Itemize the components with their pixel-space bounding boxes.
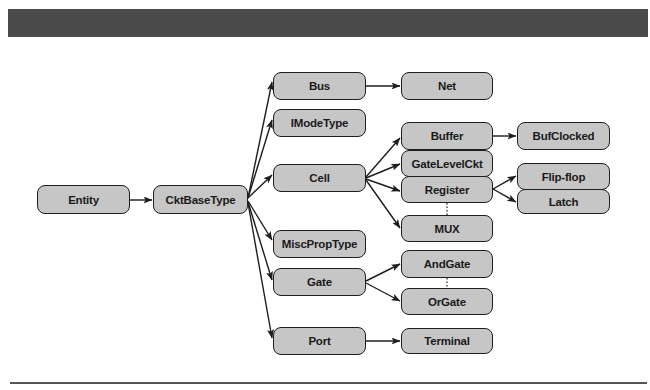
node-register: Register xyxy=(401,176,493,203)
node-miscproptype: MiscPropType xyxy=(273,230,366,258)
node-label: Register xyxy=(425,184,469,196)
node-label: Gate xyxy=(307,276,332,288)
node-label: Terminal xyxy=(424,335,469,347)
node-cktbasetype: CktBaseType xyxy=(153,185,248,214)
node-label: Port xyxy=(308,335,330,347)
node-entity: Entity xyxy=(37,185,130,214)
node-mux: MUX xyxy=(401,215,493,242)
node-label: AndGate xyxy=(424,258,471,270)
node-terminal: Terminal xyxy=(401,328,493,354)
node-imodetype: IModeType xyxy=(273,109,366,137)
node-port: Port xyxy=(273,327,366,355)
node-label: IModeType xyxy=(291,117,348,129)
node-label: Net xyxy=(438,80,456,92)
node-label: Cell xyxy=(309,172,329,184)
node-label: Latch xyxy=(549,196,579,208)
node-label: Flip-flop xyxy=(542,171,586,183)
node-bus: Bus xyxy=(273,72,366,100)
node-label: MUX xyxy=(435,223,460,235)
node-cell: Cell xyxy=(273,164,366,192)
node-label: Bus xyxy=(309,80,330,92)
node-latch: Latch xyxy=(517,189,610,214)
edge-register-latch xyxy=(493,189,516,202)
node-orgate: OrGate xyxy=(401,288,493,315)
node-label: Entity xyxy=(68,194,99,206)
node-bufclocked: BufClocked xyxy=(517,122,610,150)
edge-cktbasetype-bus xyxy=(248,82,272,198)
node-gate: Gate xyxy=(273,268,366,296)
bottom-rule xyxy=(10,382,647,384)
node-label: BufClocked xyxy=(533,130,595,142)
node-label: CktBaseType xyxy=(166,194,236,206)
edge-register-flipflop xyxy=(493,176,516,189)
node-label: Buffer xyxy=(431,130,464,142)
edge-cell-mux xyxy=(366,180,400,228)
node-buffer: Buffer xyxy=(401,122,493,150)
edge-gate-andgate xyxy=(366,264,400,281)
node-flipflop: Flip-flop xyxy=(517,163,610,190)
node-label: GateLevelCkt xyxy=(411,158,482,170)
edge-gate-orgate xyxy=(366,283,400,301)
node-andgate: AndGate xyxy=(401,250,493,278)
node-label: OrGate xyxy=(428,296,466,308)
node-label: MiscPropType xyxy=(282,238,357,250)
edge-cell-register xyxy=(366,179,400,191)
node-gatelevelckt: GateLevelCkt xyxy=(401,150,493,177)
node-net: Net xyxy=(401,72,493,100)
